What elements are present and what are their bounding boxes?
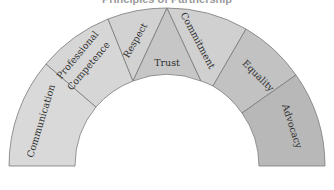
label-trust: Trust	[154, 57, 180, 68]
partnership-arch: Communication Professional Competence Re…	[0, 0, 334, 190]
